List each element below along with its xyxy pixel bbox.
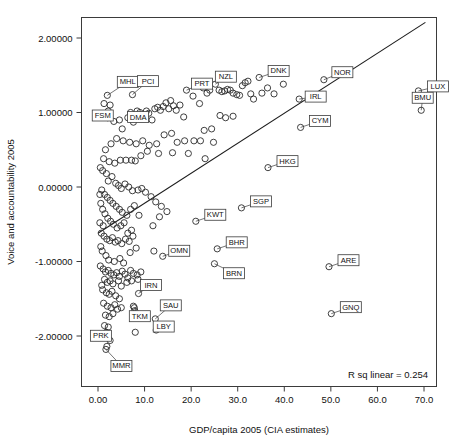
y-tick-label: -2.00000 [35, 331, 73, 342]
y-tick-label: 2.00000 [38, 33, 72, 44]
point-label-text: OMN [170, 246, 188, 255]
point-label-text: CYM [312, 116, 329, 125]
point-label-text: MHL [120, 77, 136, 86]
point-label-text: KWT [207, 210, 224, 219]
point-label-text: PCI [142, 77, 155, 86]
point-label-text: LBY [157, 322, 171, 331]
point-label-text: NZL [219, 72, 233, 81]
point-label-text: SGP [253, 197, 269, 206]
point-label-text: BRN [226, 269, 242, 278]
x-tick-label: 50.0 [322, 394, 341, 405]
x-tick-label: 40.0 [275, 394, 294, 405]
point-label-text: LUX [431, 82, 446, 91]
point-label-text: TKM [132, 312, 148, 321]
point-label-text: BHR [229, 238, 246, 247]
point-label-text: GNQ [342, 303, 359, 312]
point-label-fsm: FSM [92, 110, 113, 121]
point-label-text: IRL [310, 92, 322, 101]
point-label-dma: DMA [128, 112, 149, 123]
x-tick-label: 10.0 [135, 394, 154, 405]
point-label-lby: LBY [153, 321, 174, 332]
scatter-plot-svg: 0.0010.020.030.040.050.060.070.0 2.00000… [0, 0, 453, 443]
point-label-text: MMR [112, 361, 131, 370]
y-tick-label: -1.00000 [35, 256, 73, 267]
point-label-text: BMU [414, 93, 431, 102]
point-label-text: FSM [95, 111, 111, 120]
chart-figure: 0.0010.020.030.040.050.060.070.0 2.00000… [0, 0, 453, 443]
point-label-text: DNK [271, 66, 287, 75]
point-label-text: ARE [341, 256, 357, 265]
point-label-text: SAU [163, 301, 179, 310]
point-label-text: DMA [130, 113, 148, 122]
point-label-text: IRN [144, 281, 157, 290]
y-axis-title: Voice and accountability 2005 [5, 139, 16, 265]
point-label-text: PRT [194, 79, 209, 88]
x-tick-label: 20.0 [182, 394, 201, 405]
point-label-text: HKG [279, 157, 296, 166]
x-tick-label: 60.0 [368, 394, 387, 405]
point-label-nzl: NZL [215, 71, 236, 84]
point-label-text: NOR [334, 68, 351, 77]
r-squared-annotation: R sq linear = 0.254 [348, 369, 428, 380]
x-tick-label: 70.0 [415, 394, 434, 405]
point-label-text: PRK [93, 331, 109, 340]
x-tick-label: 30.0 [228, 394, 247, 405]
y-tick-label: 0.00000 [38, 182, 72, 193]
y-tick-label: 1.00000 [38, 107, 72, 118]
point-label-prk: PRK [90, 330, 111, 341]
x-axis-title: GDP/capita 2005 (CIA estimates) [189, 424, 329, 435]
x-tick-label: 0.00 [89, 394, 108, 405]
